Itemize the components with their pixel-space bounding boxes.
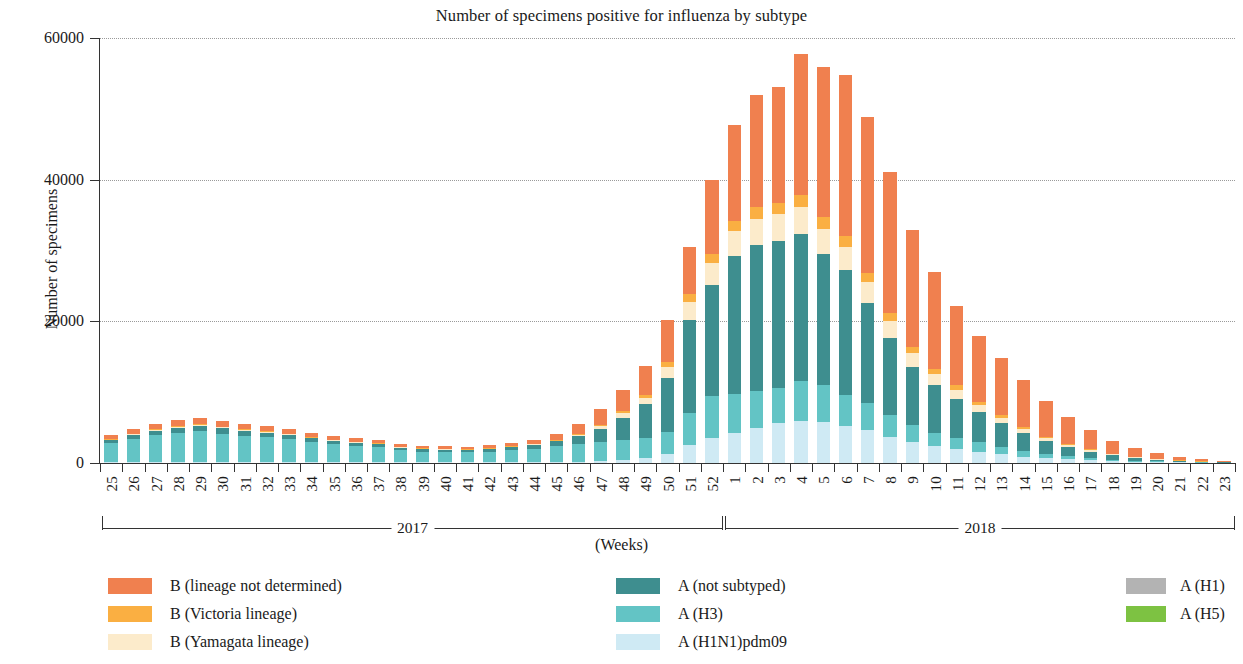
- x-tick-label: 51: [683, 476, 700, 492]
- bar-segment: [616, 418, 629, 441]
- x-tick-mark: [857, 463, 858, 472]
- x-tick-mark: [701, 463, 702, 472]
- x-tick-label: 52: [705, 476, 722, 492]
- bar-segment: [705, 438, 718, 463]
- bar-segment: [906, 425, 919, 442]
- bar-segment: [861, 403, 874, 431]
- bar-segment: [817, 385, 830, 422]
- x-tick-label: 43: [505, 476, 522, 492]
- legend-item[interactable]: B (Yamagata lineage): [108, 628, 342, 656]
- legend-item[interactable]: A (H1): [1126, 572, 1225, 600]
- bar-column: [972, 336, 985, 463]
- bar-segment: [1017, 380, 1030, 427]
- legend-swatch: [616, 606, 660, 622]
- legend-item[interactable]: A (H1N1)pdm09: [616, 628, 787, 656]
- legend-item[interactable]: A (not subtyped): [616, 572, 787, 600]
- bar-segment: [817, 422, 830, 463]
- bar-segment: [728, 394, 741, 433]
- x-tick-label: 2: [750, 476, 767, 484]
- legend-label: A (not subtyped): [678, 577, 786, 595]
- x-tick-mark: [901, 463, 902, 472]
- x-tick-mark: [189, 463, 190, 472]
- bar-segment: [1106, 441, 1119, 454]
- year-label: 2017: [391, 519, 434, 537]
- bar-segment: [639, 438, 652, 459]
- bar-segment: [794, 54, 807, 195]
- x-tick-mark: [567, 463, 568, 472]
- bar-segment: [1061, 417, 1074, 444]
- x-tick-mark: [946, 463, 947, 472]
- x-tick-label: 32: [260, 476, 277, 492]
- bar-column: [1106, 441, 1119, 463]
- bar-segment: [883, 415, 896, 437]
- x-tick-mark: [1101, 463, 1102, 472]
- x-tick-mark: [501, 463, 502, 472]
- x-tick-mark: [1035, 463, 1036, 472]
- bar-segment: [683, 320, 696, 413]
- bar-segment: [349, 446, 362, 462]
- x-tick-label: 27: [149, 476, 166, 492]
- bar-segment: [305, 442, 318, 462]
- x-tick-mark: [923, 463, 924, 472]
- bar-segment: [883, 338, 896, 415]
- bar-column: [505, 443, 518, 463]
- x-tick-mark: [300, 463, 301, 472]
- bar-segment: [861, 282, 874, 303]
- x-tick-label: 50: [661, 476, 678, 492]
- x-tick-mark: [523, 463, 524, 472]
- legend-item[interactable]: B (lineage not determined): [108, 572, 342, 600]
- bar-segment: [883, 172, 896, 313]
- year-bracket: 2018: [725, 516, 1235, 530]
- bar-segment: [972, 442, 985, 451]
- bar-segment: [372, 447, 385, 462]
- bar-column: [438, 446, 451, 463]
- bar-column: [594, 409, 607, 463]
- bar-segment: [661, 378, 674, 432]
- legend-label: B (Victoria lineage): [170, 605, 297, 623]
- bar-segment: [639, 404, 652, 437]
- x-tick-mark: [879, 463, 880, 472]
- bar-column: [772, 87, 785, 463]
- bar-segment: [238, 436, 251, 462]
- bar-segment: [616, 390, 629, 411]
- bar-segment: [683, 413, 696, 445]
- x-tick-mark: [323, 463, 324, 472]
- x-tick-mark: [456, 463, 457, 472]
- bar-segment: [794, 234, 807, 381]
- legend-label: A (H1): [1180, 577, 1225, 595]
- gridline: [100, 38, 1235, 39]
- legend-item[interactable]: A (H3): [616, 600, 787, 628]
- chart-title: Number of specimens positive for influen…: [0, 6, 1243, 26]
- legend-item[interactable]: B (Victoria lineage): [108, 600, 342, 628]
- x-tick-mark: [412, 463, 413, 472]
- bar-segment: [394, 450, 407, 462]
- bar-segment: [1039, 441, 1052, 454]
- bar-column: [1017, 380, 1030, 463]
- legend-item[interactable]: A (H5): [1126, 600, 1225, 628]
- bar-segment: [883, 313, 896, 321]
- bar-column: [416, 446, 429, 463]
- x-tick-label: 20: [1150, 476, 1167, 492]
- bar-column: [861, 117, 874, 463]
- x-tick-mark: [1124, 463, 1125, 472]
- bar-segment: [950, 390, 963, 399]
- bar-column: [349, 438, 362, 463]
- x-tick-label: 37: [371, 476, 388, 492]
- x-tick-label: 13: [994, 476, 1011, 492]
- bar-segment: [817, 217, 830, 228]
- x-tick-mark: [834, 463, 835, 472]
- bar-column: [794, 54, 807, 463]
- bar-segment: [839, 236, 852, 247]
- bar-column: [750, 95, 763, 463]
- bar-column: [1084, 430, 1097, 463]
- bar-column: [705, 180, 718, 463]
- legend-swatch: [616, 578, 660, 594]
- bar-segment: [572, 424, 585, 434]
- bar-segment: [995, 454, 1008, 463]
- bar-segment: [861, 117, 874, 273]
- bar-column: [1128, 448, 1141, 463]
- bar-segment: [505, 450, 518, 462]
- bar-segment: [950, 438, 963, 449]
- bar-segment: [683, 294, 696, 302]
- bar-segment: [639, 398, 652, 405]
